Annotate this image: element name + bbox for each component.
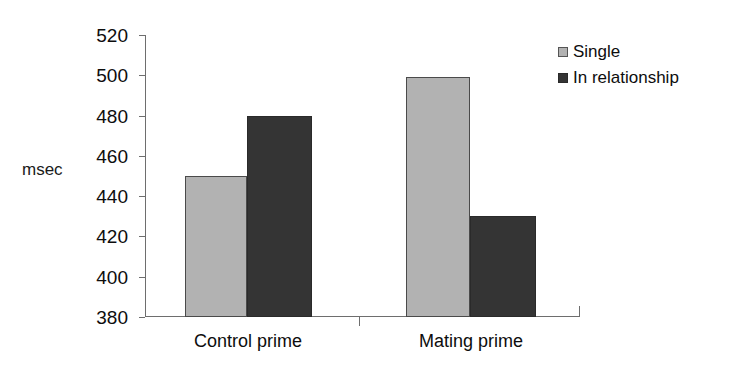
- dark-gray-swatch-icon: [558, 73, 568, 83]
- legend-item-single: Single: [558, 43, 679, 60]
- y-tick-380: 380: [139, 317, 145, 318]
- plot-area: 520 500 480 460 440 420 400 380 Control …: [145, 35, 580, 317]
- y-tick-420: 420: [139, 236, 145, 237]
- legend-item-in-relationship: In relationship: [558, 69, 679, 86]
- bar-mating-prime-in-relationship: [470, 216, 536, 317]
- x-axis-group-separator-tick: [359, 317, 360, 326]
- bar-chart: msec 520 500 480 460 440 420 400 380: [0, 0, 733, 377]
- y-axis-line: [145, 35, 146, 317]
- light-gray-swatch-icon: [558, 47, 568, 57]
- y-tick-label-440: 440: [96, 187, 128, 206]
- y-tick-440: 440: [139, 196, 145, 197]
- y-tick-label-460: 460: [96, 146, 128, 165]
- bar-control-prime-single: [185, 176, 247, 317]
- y-tick-label-480: 480: [96, 106, 128, 125]
- y-tick-label-520: 520: [96, 26, 128, 45]
- y-tick-label-500: 500: [96, 66, 128, 85]
- x-axis-end-tick: [579, 306, 580, 317]
- y-tick-520: 520: [139, 35, 145, 36]
- legend-label-single: Single: [573, 43, 620, 60]
- bar-control-prime-in-relationship: [247, 116, 312, 317]
- bar-mating-prime-single: [406, 77, 470, 317]
- legend: Single In relationship: [558, 43, 679, 95]
- y-tick-label-420: 420: [96, 227, 128, 246]
- x-axis-label-control-prime: Control prime: [194, 331, 302, 352]
- y-tick-label-380: 380: [96, 308, 128, 327]
- y-tick-480: 480: [139, 116, 145, 117]
- x-axis-label-mating-prime: Mating prime: [419, 331, 523, 352]
- legend-label-in-relationship: In relationship: [573, 69, 679, 86]
- y-tick-500: 500: [139, 75, 145, 76]
- y-axis-title: msec: [22, 160, 63, 180]
- y-tick-label-400: 400: [96, 267, 128, 286]
- y-tick-400: 400: [139, 277, 145, 278]
- y-tick-460: 460: [139, 156, 145, 157]
